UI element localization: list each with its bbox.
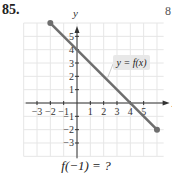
svg-text:y: y — [72, 7, 78, 19]
svg-text:−1: −1 — [63, 111, 74, 122]
svg-text:3: 3 — [114, 106, 119, 117]
svg-text:−2: −2 — [45, 106, 56, 117]
svg-text:x: x — [171, 97, 172, 109]
function-graph: xy −3−2−112345−3−2−112345 y = f(x) — [0, 0, 172, 180]
axes: xy — [26, 7, 172, 158]
question-text: f(−1) = ? — [0, 158, 172, 174]
svg-text:1: 1 — [69, 84, 74, 95]
svg-text:2: 2 — [101, 106, 106, 117]
svg-text:−2: −2 — [63, 124, 74, 135]
svg-text:−3: −3 — [63, 137, 74, 148]
svg-text:5: 5 — [69, 31, 74, 42]
svg-text:2: 2 — [69, 71, 74, 82]
grid — [24, 23, 164, 156]
svg-text:−3: −3 — [32, 106, 43, 117]
svg-text:3: 3 — [69, 58, 74, 69]
svg-text:1: 1 — [88, 106, 93, 117]
svg-text:4: 4 — [128, 106, 133, 117]
svg-text:y = f(x): y = f(x) — [115, 57, 147, 69]
